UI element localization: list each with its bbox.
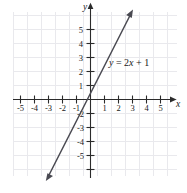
y-axis-label: y bbox=[82, 2, 88, 12]
x-tick-label: -2 bbox=[59, 103, 66, 113]
y-tick-label: 1 bbox=[79, 81, 83, 91]
y-tick-label: -4 bbox=[77, 137, 85, 147]
equation-equals: = bbox=[116, 57, 122, 68]
axes bbox=[13, 9, 170, 178]
line-arrow-up bbox=[126, 10, 133, 18]
x-tick-label: 1 bbox=[102, 103, 106, 113]
x-tick-label: -3 bbox=[45, 103, 52, 113]
equation-lhs: y bbox=[108, 57, 114, 68]
y-tick-label: -5 bbox=[77, 151, 84, 161]
y-axis-arrow bbox=[88, 3, 94, 9]
line-arrow-down bbox=[46, 173, 53, 181]
x-axis-label: x bbox=[175, 99, 181, 109]
x-tick-label: 4 bbox=[144, 103, 149, 113]
gridlines bbox=[13, 12, 177, 176]
axis-arrowheads bbox=[88, 3, 177, 103]
coordinate-plane-svg: -5 -4 -3 -2 -1 1 2 3 4 5 5 4 3 2 1 -2 -3… bbox=[0, 0, 187, 193]
x-tick-label: 5 bbox=[158, 103, 162, 113]
equation-constant: 1 bbox=[144, 57, 149, 68]
x-tick-label: -5 bbox=[17, 103, 24, 113]
y-tick-label: 5 bbox=[79, 25, 83, 35]
y-tick-label: 2 bbox=[79, 67, 83, 77]
x-tick-label: 3 bbox=[130, 103, 134, 113]
line-segment bbox=[49, 15, 131, 177]
x-tick-label: -4 bbox=[31, 103, 39, 113]
y-tick-label: 3 bbox=[79, 53, 83, 63]
equation-label: y=2x+1 bbox=[108, 57, 149, 68]
equation-plus: + bbox=[136, 57, 142, 68]
graph-figure: -5 -4 -3 -2 -1 1 2 3 4 5 5 4 3 2 1 -2 -3… bbox=[0, 0, 187, 193]
x-tick-labels: -5 -4 -3 -2 -1 1 2 3 4 5 bbox=[17, 103, 163, 113]
x-tick-label: 2 bbox=[116, 103, 120, 113]
y-tick-label: -3 bbox=[77, 123, 84, 133]
equation-variable: x bbox=[128, 57, 134, 68]
